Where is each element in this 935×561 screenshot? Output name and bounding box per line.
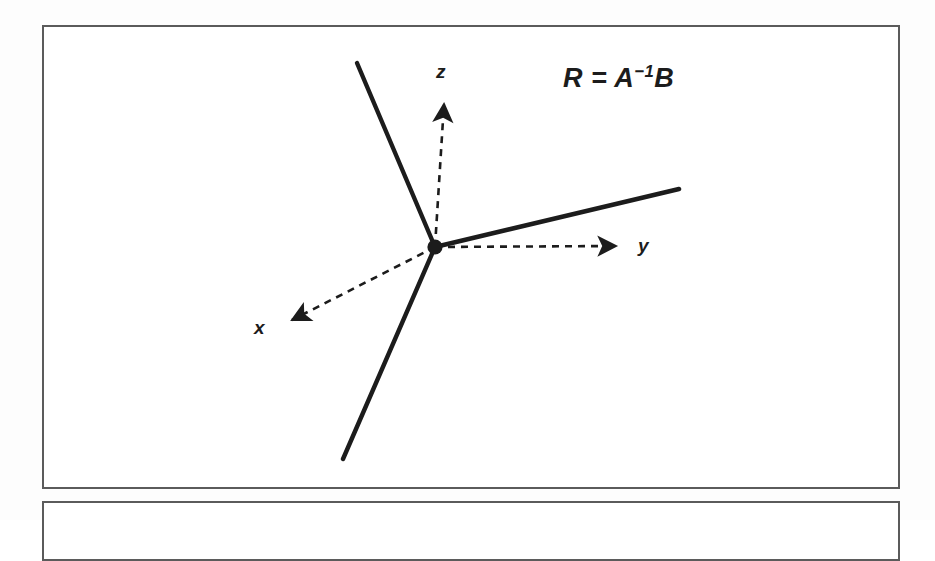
equation-exponent: −1 — [634, 62, 654, 81]
axis-label-x: x — [254, 318, 265, 337]
figure-panel-secondary — [42, 501, 900, 561]
equation-annotation: R = A−1B — [563, 64, 674, 92]
axis-label-z: z — [436, 62, 446, 81]
figure-panel-primary — [42, 25, 900, 489]
axis-label-y: y — [638, 236, 649, 255]
equation-tail: B — [654, 63, 674, 93]
equation-base: R = A — [563, 63, 634, 93]
